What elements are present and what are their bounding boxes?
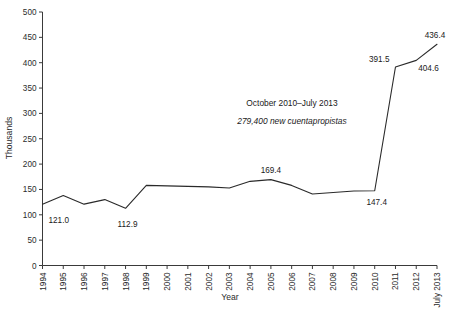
y-tick-label: 50 <box>27 236 37 245</box>
x-tick-label: 2009 <box>350 272 359 291</box>
line-chart: 050100150200250300350400450500 199419951… <box>0 0 460 311</box>
chart-svg: 050100150200250300350400450500 199419951… <box>0 0 460 311</box>
y-tick-label: 250 <box>23 135 37 144</box>
y-tick-label: 450 <box>23 33 37 42</box>
x-tick-label: 1994 <box>39 272 48 291</box>
data-point-label: 112.9 <box>118 220 138 229</box>
data-point-label: 147.4 <box>366 198 387 207</box>
y-axis-title: Thousands <box>4 117 14 160</box>
x-tick-label: 1996 <box>80 272 89 291</box>
y-tick-label: 200 <box>23 160 37 169</box>
data-point-label: 436.4 <box>425 31 446 40</box>
data-point-label: 169.4 <box>261 166 282 175</box>
x-tick-label: 1995 <box>59 272 68 291</box>
x-tick-label: 2008 <box>329 272 338 291</box>
x-tick-label: 2002 <box>205 272 214 291</box>
x-tick-label: 2007 <box>308 272 317 291</box>
chart-background <box>0 0 460 311</box>
y-tick-label: 100 <box>23 211 37 220</box>
data-point-label: 121.0 <box>49 216 70 225</box>
data-point-label: 391.5 <box>369 55 390 64</box>
x-tick-label: 2003 <box>225 272 234 291</box>
y-tick-label: 400 <box>23 59 37 68</box>
y-tick-label: 500 <box>23 8 37 17</box>
x-tick-label: 2012 <box>412 272 421 291</box>
x-tick-label: 1998 <box>122 272 131 291</box>
x-tick-label: 2011 <box>391 272 400 290</box>
x-tick-label: 2010 <box>371 272 380 291</box>
x-tick-label: 2005 <box>267 272 276 291</box>
annotation-new-cuentapropistas: 279,400 new cuentapropistas <box>236 116 347 126</box>
x-tick-label: 2001 <box>184 272 193 291</box>
x-tick-label: July 2013 <box>433 272 442 307</box>
y-tick-label: 350 <box>23 84 37 93</box>
y-tick-label: 0 <box>32 262 37 271</box>
x-tick-label: 2000 <box>163 272 172 291</box>
x-tick-label: 2004 <box>246 272 255 291</box>
x-tick-label: 2006 <box>288 272 297 291</box>
x-axis-title: Year <box>221 292 239 302</box>
y-tick-label: 150 <box>23 185 37 194</box>
x-tick-label: 1999 <box>142 272 151 291</box>
y-tick-label: 300 <box>23 109 37 118</box>
data-point-label: 404.6 <box>418 64 439 73</box>
annotation-period: October 2010–July 2013 <box>246 98 338 108</box>
x-tick-label: 1997 <box>101 272 110 291</box>
